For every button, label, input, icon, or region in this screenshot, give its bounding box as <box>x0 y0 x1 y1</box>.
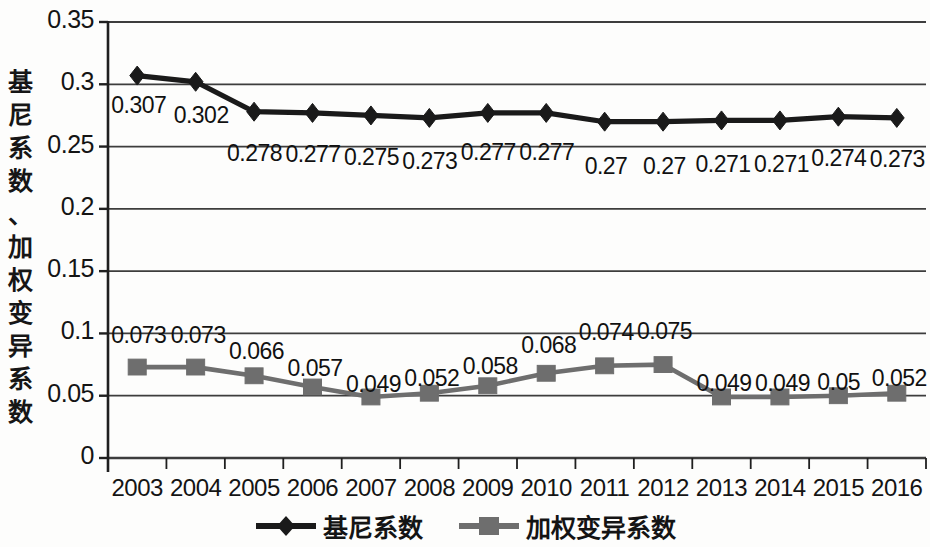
x-axis-tick-label: 2015 <box>806 474 870 502</box>
data-point-marker <box>656 112 671 131</box>
x-axis-tick-label: 2016 <box>865 474 929 502</box>
data-point-label: 0.271 <box>754 151 809 178</box>
data-point-marker <box>130 66 145 85</box>
data-point-label: 0.073 <box>171 322 226 349</box>
legend-square-icon <box>457 513 521 539</box>
data-point-label: 0.052 <box>404 365 459 392</box>
data-point-marker <box>480 103 495 122</box>
x-axis-tick-label: 2005 <box>222 474 286 502</box>
data-point-marker <box>596 358 614 374</box>
legend-label: 基尼系数 <box>323 508 423 544</box>
data-point-marker <box>831 107 846 126</box>
data-point-marker <box>654 357 672 373</box>
plot-area <box>0 0 930 547</box>
data-point-label: 0.068 <box>521 332 576 359</box>
data-point-label: 0.271 <box>696 151 751 178</box>
data-point-marker <box>364 106 379 125</box>
data-point-label: 0.057 <box>288 355 343 382</box>
data-point-label: 0.274 <box>811 145 866 172</box>
data-point-label: 0.275 <box>344 144 399 171</box>
data-point-marker <box>714 111 729 130</box>
data-point-label: 0.052 <box>872 365 927 392</box>
data-point-label: 0.307 <box>111 92 166 119</box>
data-point-label: 0.27 <box>585 153 628 180</box>
data-point-label: 0.073 <box>111 322 166 349</box>
data-point-label: 0.277 <box>519 139 574 166</box>
legend-item-1[interactable]: 基尼系数 <box>254 508 423 544</box>
data-point-label: 0.273 <box>870 146 925 173</box>
data-point-label: 0.05 <box>817 369 860 396</box>
x-axis-tick-label: 2008 <box>397 474 461 502</box>
legend-label: 加权变异系数 <box>526 508 676 544</box>
data-point-label: 0.302 <box>174 102 229 129</box>
x-axis-tick-label: 2013 <box>690 474 754 502</box>
data-point-label: 0.058 <box>463 353 518 380</box>
data-point-marker <box>597 112 612 131</box>
data-point-marker <box>128 359 146 375</box>
data-point-label: 0.075 <box>637 318 692 345</box>
data-point-label: 0.273 <box>402 148 457 175</box>
x-axis-tick-label: 2009 <box>456 474 520 502</box>
x-axis-tick-label: 2004 <box>164 474 228 502</box>
data-point-marker <box>187 359 205 375</box>
data-point-label: 0.27 <box>643 153 686 180</box>
data-point-marker <box>479 378 497 394</box>
data-point-marker <box>245 368 263 384</box>
data-point-label: 0.049 <box>755 370 810 397</box>
chart-legend: 基尼系数加权变异系数 <box>0 508 930 544</box>
data-point-marker <box>188 72 203 91</box>
data-point-marker <box>539 103 554 122</box>
data-point-marker <box>773 111 788 130</box>
x-axis-tick-label: 2010 <box>514 474 578 502</box>
data-point-marker <box>247 102 262 121</box>
chart-container: 基尼系数、加权变异系数 00.050.10.150.20.250.30.35 0… <box>0 0 930 547</box>
data-point-label: 0.277 <box>461 139 516 166</box>
data-point-label: 0.049 <box>697 370 752 397</box>
data-point-label: 0.277 <box>286 141 341 168</box>
x-axis-tick-label: 2012 <box>631 474 695 502</box>
x-axis-tick-label: 2014 <box>748 474 812 502</box>
data-point-marker <box>889 108 904 127</box>
data-point-label: 0.066 <box>229 338 284 365</box>
x-axis-tick-label: 2006 <box>281 474 345 502</box>
data-point-marker <box>305 103 320 122</box>
x-axis-tick-label: 2011 <box>573 474 637 502</box>
data-point-marker <box>537 365 555 381</box>
data-point-label: 0.074 <box>579 319 634 346</box>
data-point-marker <box>422 108 437 127</box>
data-point-label: 0.278 <box>227 140 282 167</box>
legend-item-2[interactable]: 加权变异系数 <box>457 508 676 544</box>
x-axis-tick-label: 2003 <box>105 474 169 502</box>
x-axis-tick-label: 2007 <box>339 474 403 502</box>
data-point-label: 0.049 <box>346 371 401 398</box>
legend-diamond-icon <box>254 513 318 539</box>
